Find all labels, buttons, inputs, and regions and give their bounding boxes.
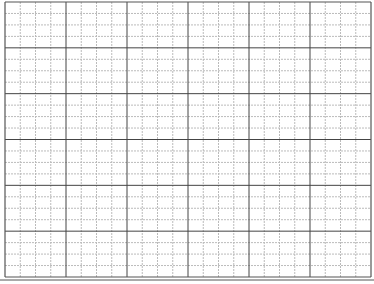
grid-canvas bbox=[0, 0, 374, 284]
